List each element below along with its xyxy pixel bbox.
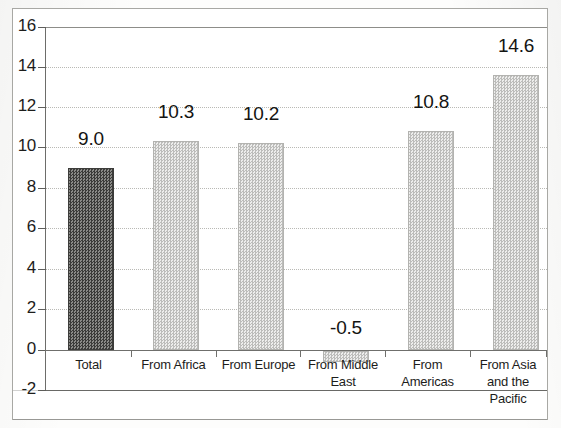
y-tick-label-0: 0: [2, 339, 36, 359]
x-axis-label-from-americas-line-2: Americas: [385, 373, 470, 390]
y-tick-4: [38, 269, 46, 270]
x-axis-label-from-africa: From Africa: [131, 356, 216, 373]
gridline-8: [45, 188, 547, 190]
y-tick-label-2: 2: [2, 298, 36, 318]
y-axis-labels: 16 14 12 10 8 6 4 2 0 -2: [0, 0, 36, 428]
x-axis-label-from-europe: From Europe: [216, 356, 301, 373]
bar-from-americas[interactable]: [408, 131, 454, 350]
y-tick-label-8: 8: [2, 177, 36, 197]
bar-value-from-americas: 10.8: [401, 91, 461, 113]
x-axis-zero-line: [45, 350, 547, 351]
x-axis-label-total: Total: [46, 356, 131, 373]
x-axis-label-from-asia-line-2: and the: [470, 373, 546, 390]
bar-value-total: 9.0: [61, 128, 121, 150]
y-tick-10: [38, 147, 46, 148]
gridline-2: [45, 309, 547, 311]
y-tick-12: [38, 107, 46, 108]
scan-artifact-line-2: [13, 419, 547, 420]
y-tick-label-4: 4: [2, 258, 36, 278]
x-axis-label-from-africa-line-1: From Africa: [131, 356, 216, 373]
scanned-page-background: 16 14 12 10 8 6 4 2 0 -2 9.0 10: [0, 0, 561, 428]
gridline-14: [45, 67, 547, 69]
gridline-12: [45, 107, 547, 109]
x-axis-label-from-europe-line-1: From Europe: [216, 356, 301, 373]
gridline-16: [45, 27, 547, 29]
bar-value-from-europe: 10.2: [231, 103, 291, 125]
gridline-6: [45, 228, 547, 230]
x-axis-label-from-asia-line-1: From Asia: [470, 356, 546, 373]
y-tick-2: [38, 309, 46, 310]
y-tick-label--2: -2: [2, 379, 36, 399]
scan-artifact-line-1: [13, 390, 547, 391]
x-axis-label-from-middle-east: From Middle East: [300, 356, 386, 390]
y-tick-label-14: 14: [2, 56, 36, 76]
x-axis-label-from-asia-line-3: Pacific: [470, 390, 546, 407]
x-axis-label-from-middle-east-line-1: From Middle: [300, 356, 386, 373]
bar-value-from-middle-east: -0.5: [316, 317, 376, 339]
bar-total[interactable]: [68, 168, 114, 350]
bar-from-europe[interactable]: [238, 143, 284, 350]
x-axis-label-from-americas: From Americas: [385, 356, 470, 390]
y-axis-line: [45, 27, 46, 390]
y-tick-label-16: 16: [2, 16, 36, 36]
y-tick-label-6: 6: [2, 217, 36, 237]
bar-from-asia-and-the-pacific[interactable]: [493, 75, 539, 350]
x-axis-label-from-americas-line-1: From: [385, 356, 470, 373]
x-axis-label-from-asia-and-the-pacific: From Asia and the Pacific: [470, 356, 546, 407]
bar-value-from-asia-and-the-pacific: 14.6: [486, 35, 546, 57]
y-tick-8: [38, 188, 46, 189]
x-tick-6: [546, 350, 547, 357]
y-tick-label-12: 12: [2, 96, 36, 116]
x-axis-label-from-middle-east-line-2: East: [300, 373, 386, 390]
y-tick-14: [38, 67, 46, 68]
x-axis-label-total-line-1: Total: [46, 356, 131, 373]
y-tick-16: [38, 27, 46, 28]
y-tick-6: [38, 228, 46, 229]
gridline-4: [45, 269, 547, 271]
bar-value-from-africa: 10.3: [146, 101, 206, 123]
bar-from-africa[interactable]: [153, 141, 199, 350]
y-tick-label-10: 10: [2, 136, 36, 156]
